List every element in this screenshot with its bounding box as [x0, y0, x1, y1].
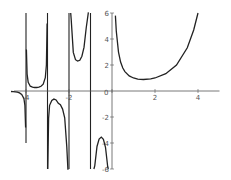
gamma-curve-branch: [115, 13, 198, 80]
y-tick-label: 6: [105, 10, 110, 18]
gamma-curve-branch: [11, 92, 26, 128]
gamma-curve-branch: [48, 99, 69, 169]
y-tick-label: 2: [105, 62, 109, 70]
gamma-curve-branch: [71, 13, 89, 61]
x-axis: -4-224: [14, 89, 220, 102]
y-tick-label: -2: [102, 114, 109, 122]
y-tick-label: 4: [105, 36, 110, 44]
x-tick-label: -2: [66, 94, 73, 102]
y-tick-label: -6: [102, 166, 110, 174]
x-tick-label: 4: [196, 94, 201, 102]
x-tick-label: 2: [153, 94, 157, 102]
origin-label: 0: [104, 89, 108, 97]
gamma-function-chart: -4-224 -6-4-2246 0: [0, 0, 231, 180]
gamma-curve-branch: [26, 23, 47, 87]
